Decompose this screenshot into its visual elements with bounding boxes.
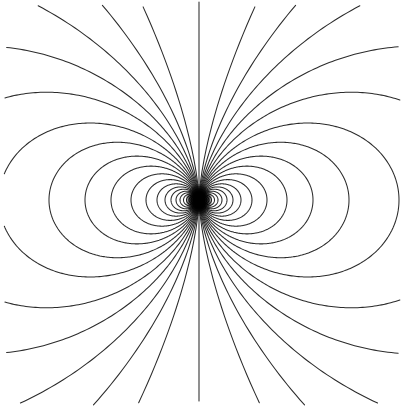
dipole-field-figure [0,0,404,409]
dipole-core [194,194,203,205]
dipole-core-group [186,184,212,216]
field-line-canvas [0,0,404,409]
